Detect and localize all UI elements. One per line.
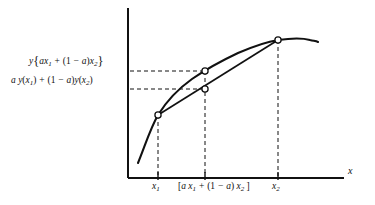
concave-curve [138, 39, 318, 164]
chord-line [158, 40, 278, 115]
marker-left-endpoint [155, 112, 161, 118]
concavity-figure: y{ax1 + (1 − a)x2} a y(x1) + (1 − a)y(x2… [0, 0, 375, 205]
x-tick-label-convex-combination: [a x1 + (1 − a) x2 ] [178, 182, 250, 193]
marker-chord-at-combination [202, 86, 208, 92]
marker-right-endpoint [275, 37, 281, 43]
x-tick-label-x1: x1 [152, 182, 160, 193]
y-value-label-upper: y{ax1 + (1 − a)x2} [29, 55, 103, 68]
plot-canvas [0, 0, 375, 205]
x-tick-label-x2: x2 [272, 182, 280, 193]
x-axis-name-label: x [348, 166, 352, 176]
marker-curve-at-combination [202, 68, 208, 74]
y-value-label-lower: a y(x1) + (1 − a)y(x2) [11, 76, 93, 87]
